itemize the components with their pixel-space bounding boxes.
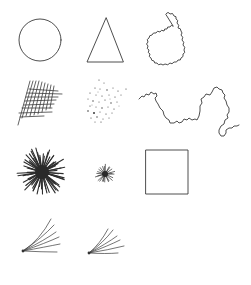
dot-scatter-shape (87, 79, 126, 122)
large-starburst-core (35, 165, 49, 179)
fan-curves-2-shape (89, 229, 124, 254)
small-starburst-core (102, 171, 108, 177)
triangle-shape (87, 18, 123, 62)
square-shape (146, 150, 188, 194)
fan-curves-1-origin (22, 250, 25, 253)
fan-curves-2-origin (88, 252, 91, 255)
fan-curves-1-shape (23, 219, 60, 252)
figure-canvas (0, 0, 251, 285)
line-figures (0, 0, 251, 285)
scalloped-blob-shape (147, 13, 185, 66)
wandering-line-shape (139, 87, 239, 136)
circle-shape (19, 19, 61, 61)
crosshatch-shape (18, 81, 62, 125)
